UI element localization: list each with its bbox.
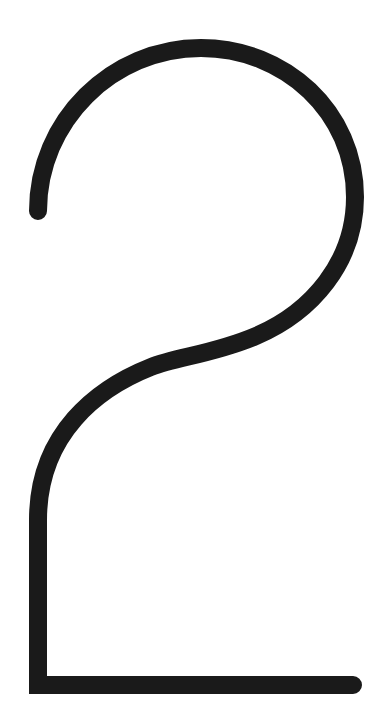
digit-two-glyph: Numeral Two Glyph [0,0,380,725]
glyph-canvas: Numeral Two Glyph [0,0,380,725]
